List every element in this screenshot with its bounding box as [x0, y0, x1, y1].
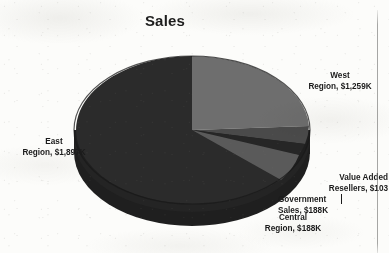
data-label-government-sales-line1: Government	[278, 195, 326, 204]
data-label-west-region-line2: Region, $1,259K	[296, 81, 384, 92]
data-label-east-region-line1: East	[45, 137, 62, 146]
data-label-value-added-resellers-line2: Resellers, $103	[296, 183, 388, 194]
data-label-east-region-line2: Region, $1,897K	[2, 147, 106, 158]
data-label-east-region: East Region, $1,897K	[2, 136, 106, 158]
data-label-west-region-line1: West	[330, 71, 349, 80]
data-label-west-region: West Region, $1,259K	[296, 70, 384, 92]
page-margin-rule	[377, 10, 378, 253]
data-label-central-region-line1: Central	[279, 213, 307, 222]
chart-title: Sales	[0, 12, 330, 29]
data-label-central-region: Central Region, $188K	[240, 212, 346, 234]
pie-slice-west-region	[192, 56, 309, 130]
text-caret	[341, 194, 342, 204]
scanned-page: Sales	[0, 0, 389, 253]
data-label-value-added-resellers: Value Added Resellers, $103	[296, 172, 388, 194]
data-label-central-region-line2: Region, $188K	[240, 223, 346, 234]
data-label-value-added-resellers-line1: Value Added	[339, 173, 388, 182]
